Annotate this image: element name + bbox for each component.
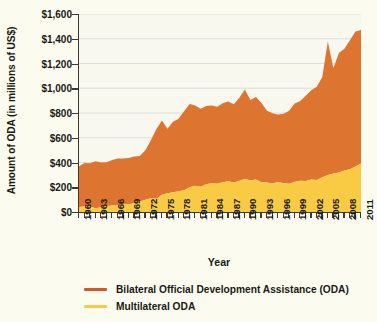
x-tick-mark <box>227 213 228 218</box>
x-tick-label: 2002 <box>314 199 325 220</box>
x-tick-mark <box>211 213 212 218</box>
x-tick-mark <box>310 213 311 218</box>
legend-label-multilateral: Multilateral ODA <box>116 301 195 312</box>
legend-swatch-multilateral <box>84 305 107 308</box>
x-tick-mark <box>244 213 245 218</box>
x-tick-label: 1981 <box>198 199 209 220</box>
x-tick-label: 1969 <box>131 199 142 220</box>
chart-legend: Bilateral Official Development Assistanc… <box>84 281 374 315</box>
x-tick-label: 2008 <box>347 199 358 220</box>
y-axis-title: Amount of ODA (in millions of US$) <box>0 0 24 220</box>
x-tick-mark <box>194 213 195 218</box>
y-tick-mark <box>72 113 78 114</box>
x-axis-title: Year <box>78 256 360 268</box>
y-tick-label: $600 <box>50 132 72 143</box>
x-tick-mark <box>78 213 79 218</box>
y-axis-tick-labels: $0$200$400$600$800$1,000$1,200$1,400$1,6… <box>22 0 76 220</box>
x-tick-label: 1978 <box>181 199 192 220</box>
x-tick-mark <box>294 213 295 218</box>
y-tick-mark <box>72 163 78 164</box>
y-tick-label: $200 <box>50 182 72 193</box>
x-tick-mark <box>128 213 129 218</box>
x-tick-label: 2005 <box>330 199 341 220</box>
y-tick-label: $800 <box>50 108 72 119</box>
x-tick-mark <box>111 213 112 218</box>
y-tick-mark <box>72 64 78 65</box>
x-tick-label: 1984 <box>214 199 225 220</box>
x-tick-label: 1999 <box>297 199 308 220</box>
stacked-area-plot <box>79 14 361 212</box>
y-tick-label: $0 <box>61 207 72 218</box>
x-tick-mark <box>95 213 96 218</box>
y-axis-title-text: Amount of ODA (in millions of US$) <box>7 26 18 194</box>
y-tick-label: $400 <box>50 157 72 168</box>
x-tick-label: 2011 <box>364 199 375 220</box>
x-tick-label: 1972 <box>148 199 159 220</box>
legend-item-bilateral: Bilateral Official Development Assistanc… <box>84 281 374 298</box>
x-tick-mark <box>343 213 344 218</box>
plot-area <box>78 14 361 213</box>
x-tick-label: 1963 <box>98 199 109 220</box>
x-tick-mark <box>260 213 261 218</box>
x-tick-label: 1996 <box>281 199 292 220</box>
chart-figure: Amount of ODA (in millions of US$) $0$20… <box>0 0 377 322</box>
y-tick-label: $1,000 <box>41 83 72 94</box>
y-tick-mark <box>72 187 78 188</box>
x-tick-label: 1987 <box>231 199 242 220</box>
x-tick-mark <box>161 213 162 218</box>
y-tick-mark <box>72 138 78 139</box>
x-tick-mark <box>277 213 278 218</box>
y-tick-mark <box>72 39 78 40</box>
x-tick-label: 1993 <box>264 199 275 220</box>
x-tick-label: 1960 <box>82 199 93 220</box>
x-tick-label: 1990 <box>247 199 258 220</box>
y-tick-label: $1,200 <box>41 58 72 69</box>
legend-swatch-bilateral <box>84 288 107 291</box>
x-tick-mark <box>178 213 179 218</box>
y-tick-label: $1,400 <box>41 33 72 44</box>
x-tick-mark <box>144 213 145 218</box>
y-tick-mark <box>72 14 78 15</box>
y-tick-mark <box>72 88 78 89</box>
legend-item-multilateral: Multilateral ODA <box>84 298 374 315</box>
x-tick-label: 1975 <box>165 199 176 220</box>
x-tick-mark <box>360 213 361 218</box>
x-tick-label: 1966 <box>115 199 126 220</box>
legend-label-bilateral: Bilateral Official Development Assistanc… <box>116 284 349 295</box>
y-tick-label: $1,600 <box>41 9 72 20</box>
x-tick-mark <box>327 213 328 218</box>
